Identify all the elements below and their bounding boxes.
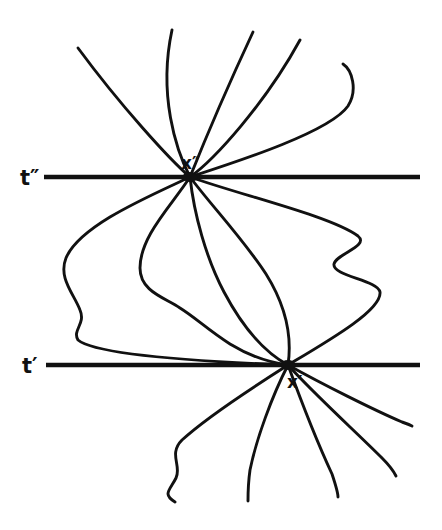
path-integral-figure: t″ t′ x″ x′ xyxy=(0,0,442,530)
axis-label-t-double-prime: t″ xyxy=(20,166,39,190)
diagram-canvas: t″ t′ x″ x′ xyxy=(0,0,442,530)
vertex-dot-x-prime xyxy=(281,360,296,370)
vertex-label-x-prime: x′ xyxy=(287,372,303,392)
vertex-label-x-double-prime: x″ xyxy=(181,153,200,173)
vertex-dot-x-double-prime xyxy=(183,172,198,182)
axis-label-t-prime: t′ xyxy=(22,354,38,378)
